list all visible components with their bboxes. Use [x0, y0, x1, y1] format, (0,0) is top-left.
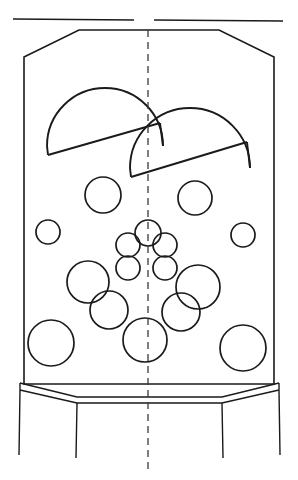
circle-mid-left-large: [67, 261, 109, 303]
top-reference-line-group: [13, 19, 283, 21]
circle-cluster-lowleft: [116, 256, 140, 280]
vessel-body-outline: [24, 30, 274, 384]
circle-cluster-lowright: [153, 256, 177, 280]
bottom-skirt-upper: [20, 383, 279, 397]
circle-bottom-left: [28, 320, 74, 366]
technical-drawing-canvas: [0, 0, 298, 480]
circle-right-small: [231, 223, 255, 247]
circle-bottom-right: [220, 325, 266, 371]
dome-left-group: [47, 88, 163, 155]
dome-left-base-slant: [48, 123, 160, 155]
bottom-skirt-group: [20, 383, 279, 403]
dome-right-left-edge: [130, 168, 131, 177]
circle-left-small: [36, 220, 60, 244]
dome-left-left-edge: [47, 146, 48, 155]
top-reference-line-right: [154, 20, 283, 21]
circle-lower-right-mid: [162, 293, 200, 331]
circle-bottom-center: [123, 318, 167, 362]
circle-upper-right-mid: [178, 181, 212, 215]
dome-left-arc: [47, 88, 163, 146]
support-legs: [19, 390, 280, 458]
vessel-body-outline-group: [24, 30, 274, 384]
leg-outer-right: [279, 390, 280, 455]
leg-inner-right: [222, 403, 223, 458]
top-reference-line-left: [13, 19, 134, 20]
dome-right-base-slant: [131, 142, 247, 177]
circle-array: [28, 177, 266, 371]
circle-cluster-upleft: [116, 233, 140, 257]
circle-lower-left-mid: [90, 291, 128, 329]
circle-upper-left-mid: [85, 177, 121, 213]
circle-cluster-upright: [153, 233, 177, 257]
vessel-cross-section-diagram: [0, 0, 298, 480]
leg-inner-left: [76, 403, 77, 458]
leg-outer-left: [19, 390, 20, 455]
